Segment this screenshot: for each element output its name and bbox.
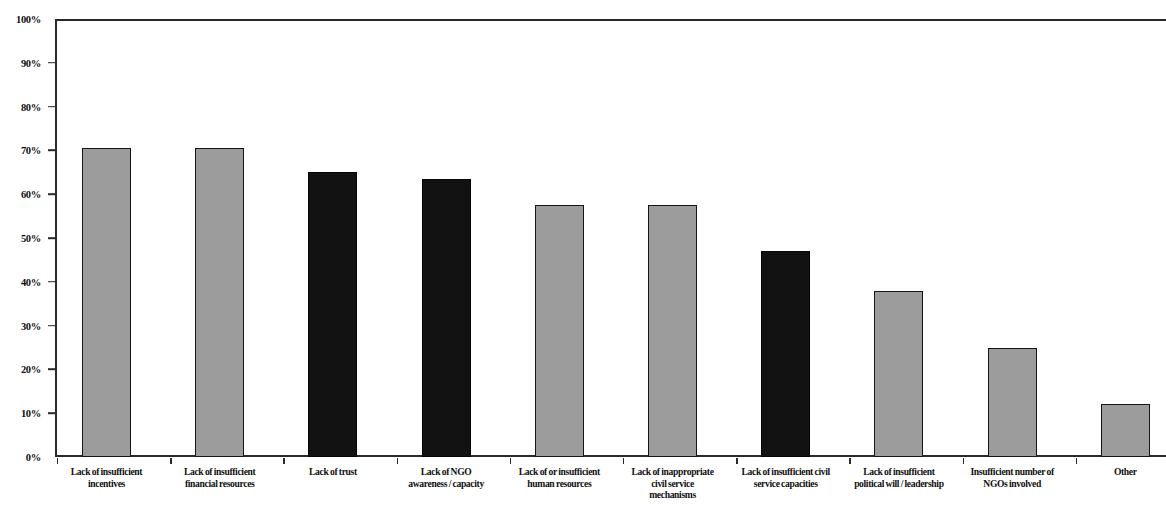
x-axis-category-label-line: Lack of insufficient civil: [727, 466, 845, 478]
x-axis-category-label: Lack of trust: [274, 466, 392, 478]
x-axis-labels: Lack of insufficientincentivesLack of in…: [0, 466, 1166, 506]
x-axis-tick-mark: [510, 458, 511, 464]
x-axis-tick-mark: [283, 458, 284, 464]
x-axis-category-label-line: incentives: [48, 478, 166, 490]
x-axis-category-label-line: Lack of trust: [274, 466, 392, 478]
x-axis-category-label-line: Lack of insufficient: [161, 466, 279, 478]
x-axis-tick-mark: [963, 458, 964, 464]
x-axis-category-label-line: Lack of inappropriate: [614, 466, 732, 478]
x-axis-category-label-line: NGOs involved: [953, 478, 1071, 490]
x-axis-tick-mark: [170, 458, 171, 464]
x-axis-category-label: Insufficient number ofNGOs involved: [953, 466, 1071, 489]
x-axis-category-label-line: human resources: [500, 478, 618, 490]
x-axis-tick-mark: [57, 458, 58, 464]
x-axis-category-label-line: political will / leadership: [840, 478, 958, 490]
x-axis-tick-mark: [397, 458, 398, 464]
x-axis-category-label: Lack of or insufficienthuman resources: [500, 466, 618, 489]
x-axis-category-label-line: Lack of NGO: [387, 466, 505, 478]
x-axis-tick-mark: [849, 458, 850, 464]
x-axis-category-label: Lack of insufficientincentives: [48, 466, 166, 489]
x-axis-tick-mark: [1076, 458, 1077, 464]
x-axis-ticks: [0, 0, 1166, 506]
x-axis-category-label-line: Insufficient number of: [953, 466, 1071, 478]
x-axis-category-label-line: Lack of or insufficient: [500, 466, 618, 478]
x-axis-category-label-line: awareness / capacity: [387, 478, 505, 490]
x-axis-category-label: Lack of insufficient civilservice capaci…: [727, 466, 845, 489]
x-axis-category-label-line: Lack of insufficient: [48, 466, 166, 478]
x-axis-category-label-line: mechanisms: [614, 489, 732, 501]
x-axis-category-label: Lack of insufficientfinancial resources: [161, 466, 279, 489]
x-axis-category-label: Other: [1066, 466, 1166, 478]
x-axis-category-label-line: financial resources: [161, 478, 279, 490]
x-axis-category-label: Lack of insufficientpolitical will / lea…: [840, 466, 958, 489]
bar-chart: 100%90%80%70%60%50%40%30%20%10%0% Lack o…: [0, 0, 1166, 506]
x-axis-category-label: Lack of inappropriatecivil servicemechan…: [614, 466, 732, 501]
x-axis-category-label-line: Other: [1066, 466, 1166, 478]
x-axis-category-label-line: service capacities: [727, 478, 845, 490]
x-axis-category-label-line: civil service: [614, 478, 732, 490]
x-axis-tick-mark: [736, 458, 737, 464]
x-axis-category-label-line: Lack of insufficient: [840, 466, 958, 478]
x-axis-category-label: Lack of NGOawareness / capacity: [387, 466, 505, 489]
x-axis-tick-mark: [623, 458, 624, 464]
